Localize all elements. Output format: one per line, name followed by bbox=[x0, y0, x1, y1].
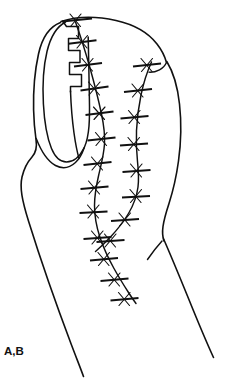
fingertip-illustration bbox=[0, 0, 236, 379]
suture-stitch bbox=[123, 164, 151, 177]
suture-stitch bbox=[122, 190, 150, 203]
adjacent-digit-edge bbox=[164, 239, 214, 358]
finger-outline-right bbox=[163, 62, 181, 242]
zigzag-incision-tail bbox=[71, 91, 80, 159]
suture-stitch bbox=[121, 111, 149, 124]
suture-stitch bbox=[88, 133, 116, 146]
panel-label: A,B bbox=[4, 346, 24, 358]
suture-stitch bbox=[69, 36, 97, 49]
suture-stitch bbox=[101, 273, 129, 286]
figure-root: A,B bbox=[0, 0, 236, 379]
suture-stitch bbox=[111, 213, 139, 226]
suture-stitch bbox=[84, 157, 112, 170]
suture-stitch bbox=[81, 181, 109, 194]
suture-stitch bbox=[111, 293, 139, 306]
web-crease bbox=[148, 241, 163, 260]
suture-stitch bbox=[133, 59, 161, 72]
suture-stitch bbox=[120, 138, 148, 151]
finger-outline-group bbox=[21, 17, 213, 376]
finger-outline-left bbox=[21, 23, 83, 377]
suture-stitch bbox=[90, 253, 118, 266]
fingernail-group bbox=[36, 22, 89, 168]
suture-stitch bbox=[80, 205, 108, 218]
suture-stitch bbox=[124, 84, 152, 97]
